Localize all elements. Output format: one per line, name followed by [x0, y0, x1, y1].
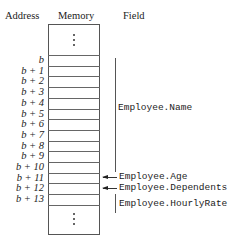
- memory-cell-divider: [48, 141, 100, 142]
- address-label: b + 9: [21, 150, 44, 161]
- memory-cell-divider: [48, 194, 100, 195]
- memory-cell-divider: [48, 55, 100, 56]
- hourly-rate-brace: [115, 194, 116, 213]
- field-employee-name: Employee.Name: [118, 102, 192, 113]
- address-label: b + 2: [21, 75, 44, 86]
- memory-cell-divider: [48, 151, 100, 152]
- address-label: b + 6: [21, 118, 44, 129]
- address-label: b + 4: [21, 97, 44, 108]
- memory-cell-divider: [48, 130, 100, 131]
- address-label: b + 3: [21, 86, 44, 97]
- continuation-dots-bottom: [73, 213, 75, 228]
- address-label: b + 5: [21, 108, 44, 119]
- header-field: Field: [123, 10, 145, 21]
- memory-cell-divider: [48, 109, 100, 110]
- header-memory: Memory: [58, 10, 94, 21]
- name-brace: [115, 58, 116, 172]
- address-label: b + 8: [21, 140, 44, 151]
- field-employee-dependents: Employee.Dependents: [119, 182, 227, 193]
- age-arrow-icon: [103, 177, 117, 178]
- memory-cell-divider: [48, 66, 100, 67]
- header-address: Address: [5, 10, 39, 21]
- memory-cell-divider: [48, 183, 100, 184]
- field-employee-hourly-rate: Employee.HourlyRate: [119, 198, 227, 209]
- continuation-dots-top: [73, 34, 75, 49]
- memory-cell-divider: [48, 76, 100, 77]
- memory-cell-divider: [48, 119, 100, 120]
- memory-cell-divider: [48, 98, 100, 99]
- field-employee-age: Employee.Age: [119, 171, 187, 182]
- address-label: b + 7: [21, 129, 44, 140]
- memory-cell-divider: [48, 87, 100, 88]
- address-label: b: [39, 54, 44, 65]
- address-label: b + 13: [16, 193, 44, 204]
- memory-cell-divider: [48, 205, 100, 206]
- address-label: b + 1: [21, 65, 44, 76]
- address-label: b + 11: [17, 172, 44, 183]
- memory-cell-divider: [48, 173, 100, 174]
- dependents-arrow-icon: [103, 188, 117, 189]
- address-label: b + 10: [16, 161, 44, 172]
- address-label: b + 12: [16, 182, 44, 193]
- memory-cell-divider: [48, 162, 100, 163]
